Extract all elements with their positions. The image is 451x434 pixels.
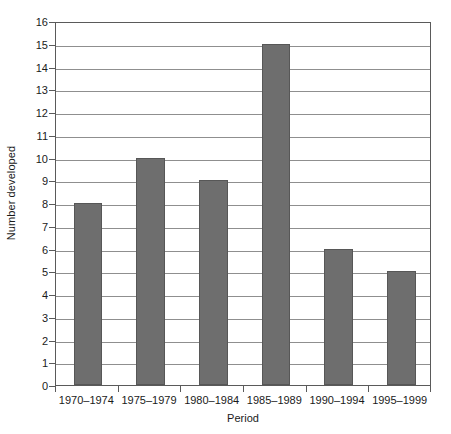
y-tick-label: 5 [42, 267, 48, 278]
x-tick-mark [118, 386, 119, 392]
x-tick-label: 1975–1979 [118, 393, 181, 407]
y-tick-label: 16 [36, 17, 48, 28]
bar-slot [56, 23, 119, 385]
y-tick-label: 2 [42, 335, 48, 346]
y-axis-tick-labels: 012345678910111213141516 [22, 22, 48, 386]
y-tick-label: 6 [42, 244, 48, 255]
y-tick-label: 15 [36, 39, 48, 50]
bar-slot [307, 23, 370, 385]
y-axis-title-text: Number developed [5, 146, 17, 241]
x-tick-label: 1980–1984 [180, 393, 243, 407]
bar-slot [119, 23, 182, 385]
y-tick-label: 8 [42, 199, 48, 210]
x-tick-mark [306, 386, 307, 392]
bar-slot [181, 23, 244, 385]
bars-layer [56, 23, 430, 385]
x-axis-tick-labels: 1970–19741975–19791980–19841985–19891990… [55, 393, 431, 409]
y-tick-label: 14 [36, 62, 48, 73]
y-tick-label: 11 [37, 130, 48, 141]
x-axis-title: Period [55, 411, 431, 425]
y-axis-title: Number developed [0, 0, 22, 386]
x-axis-tick-marks [55, 386, 432, 392]
bar-slot [369, 23, 432, 385]
y-tick-label: 3 [42, 312, 48, 323]
bar-chart: Number developed 01234567891011121314151… [0, 0, 451, 434]
x-tick-label: 1985–1989 [243, 393, 306, 407]
bar[interactable] [199, 180, 228, 385]
y-tick-label: 13 [36, 85, 48, 96]
plot-area [55, 22, 431, 386]
y-tick-label: 10 [36, 153, 48, 164]
bar-slot [244, 23, 307, 385]
x-tick-label: 1990–1994 [306, 393, 369, 407]
x-tick-mark [243, 386, 244, 392]
x-tick-mark [55, 386, 56, 392]
y-tick-label: 7 [42, 221, 48, 232]
x-tick-label: 1970–1974 [55, 393, 118, 407]
x-tick-mark [180, 386, 181, 392]
x-tick-mark [368, 386, 369, 392]
y-tick-label: 12 [36, 108, 48, 119]
x-tick-mark [430, 386, 431, 392]
y-tick-label: 4 [42, 290, 48, 301]
y-tick-label: 1 [42, 358, 48, 369]
y-tick-label: 0 [42, 381, 48, 392]
bar[interactable] [262, 44, 291, 385]
bar[interactable] [136, 158, 165, 386]
bar[interactable] [387, 271, 416, 385]
bar[interactable] [324, 249, 353, 386]
bar[interactable] [74, 203, 103, 385]
x-tick-label: 1995–1999 [368, 393, 431, 407]
y-tick-label: 9 [42, 176, 48, 187]
